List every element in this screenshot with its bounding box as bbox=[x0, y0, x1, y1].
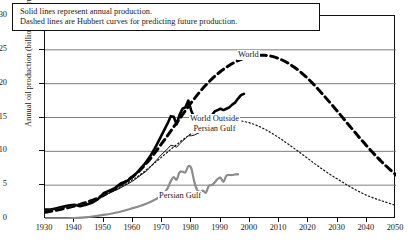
y-tick-label-0: 0 bbox=[0, 214, 7, 222]
x-tick-label-1990: 1990 bbox=[205, 223, 235, 232]
y-tick-label-10: 10 bbox=[0, 146, 7, 154]
x-tick-label-2050: 2050 bbox=[380, 223, 408, 232]
series-label-persian-gulf: Persian Gulf bbox=[158, 191, 202, 201]
y-tick-label-5: 5 bbox=[0, 180, 7, 188]
series-label-wopg-line2: Persian Gulf bbox=[193, 124, 235, 133]
oil-production-chart: Annual oil production (billions of barre… bbox=[0, 0, 408, 247]
x-tick-label-1980: 1980 bbox=[175, 223, 205, 232]
series-label-wopg-line1: World Outside bbox=[190, 114, 239, 123]
y-tick-label-20: 20 bbox=[0, 79, 7, 87]
x-tick-label-2010: 2010 bbox=[263, 223, 293, 232]
x-tick-label-2000: 2000 bbox=[234, 223, 264, 232]
x-tick-label-1930: 1930 bbox=[29, 223, 59, 232]
series-label-world: World bbox=[237, 50, 260, 60]
x-tick-label-1970: 1970 bbox=[146, 223, 176, 232]
caption-box: Solid lines represent annual production.… bbox=[12, 3, 320, 31]
x-tick-label-1960: 1960 bbox=[117, 223, 147, 232]
x-tick-label-2030: 2030 bbox=[322, 223, 352, 232]
caption-line-1: Solid lines represent annual production. bbox=[20, 7, 313, 17]
x-tick-label-1940: 1940 bbox=[58, 223, 88, 232]
x-tick-label-1950: 1950 bbox=[88, 223, 118, 232]
y-tick-label-30: 30 bbox=[0, 11, 7, 19]
series-label-world-outside-persian-gulf: World Outside Persian Gulf bbox=[189, 114, 240, 133]
x-tick-label-2020: 2020 bbox=[292, 223, 322, 232]
caption-line-2: Dashed lines are Hubbert curves for pred… bbox=[20, 17, 313, 27]
y-tick-label-15: 15 bbox=[0, 113, 7, 121]
y-tick-label-25: 25 bbox=[0, 45, 7, 53]
x-tick-label-2040: 2040 bbox=[351, 223, 381, 232]
